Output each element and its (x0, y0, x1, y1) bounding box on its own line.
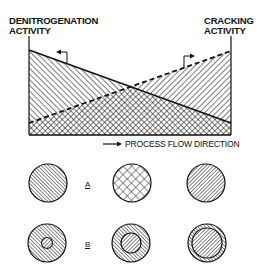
activity-chart (29, 36, 231, 135)
pellet-b1 (28, 224, 66, 262)
row-a-pellets (29, 164, 225, 202)
process-diagram (0, 0, 263, 280)
flow-arrow-icon (103, 142, 122, 147)
pellet-b2 (112, 224, 150, 262)
pellet-a1 (29, 164, 67, 202)
pellet-b3 (188, 224, 226, 262)
row-b-pellets (28, 224, 226, 262)
pellet-a2 (113, 164, 151, 202)
pellet-a3 (187, 164, 225, 202)
